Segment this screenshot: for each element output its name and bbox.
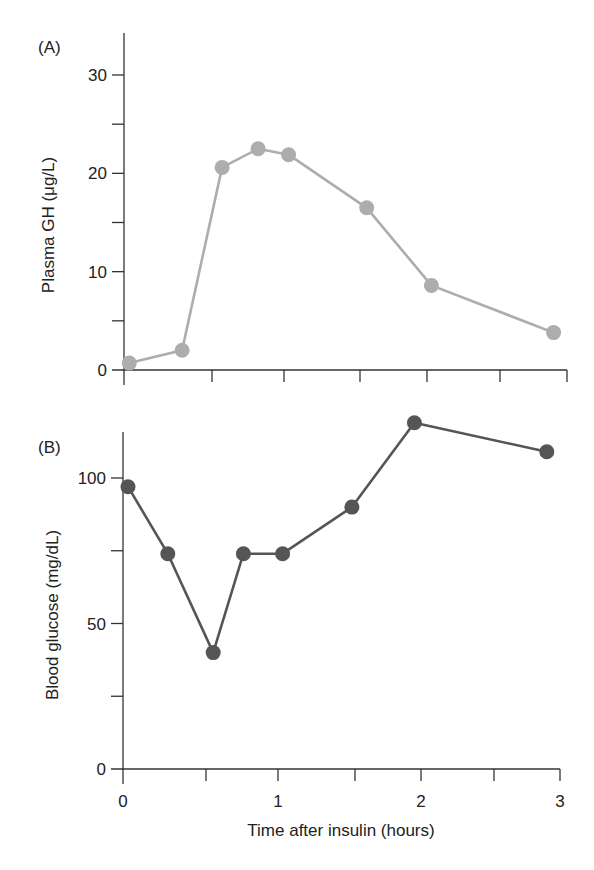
panel-a-label: (A)	[38, 38, 61, 57]
panel-a-data-point	[251, 141, 266, 156]
panel-a-data-point	[122, 356, 137, 371]
panel-b-x-tick-label: 1	[273, 792, 282, 811]
panel-b-data-point	[121, 479, 136, 494]
panel-b-y-axis-title: Blood glucose (mg/dL)	[43, 530, 62, 700]
panel-b-y-tick-label: 50	[87, 615, 106, 634]
panel-a-data-line	[129, 149, 553, 363]
panel-b-data-point	[407, 415, 422, 430]
panel-a-data-point	[546, 325, 561, 340]
panel-a-data-point	[175, 343, 190, 358]
panel-a-y-tick-label: 20	[88, 164, 107, 183]
panel-a-data-point	[424, 278, 439, 293]
panel-b-data-point	[275, 546, 290, 561]
panel-b-data-point	[236, 546, 251, 561]
panel-b-x-tick-label: 3	[555, 792, 564, 811]
panel-b-y-tick-label: 0	[97, 760, 106, 779]
panel-a-y-axis-title: Plasma GH (μg/L)	[39, 157, 58, 293]
panel-b-x-tick-label: 2	[416, 792, 425, 811]
chart-canvas: (A) Plasma GH (μg/L) 0102030 (B) Blood g…	[0, 0, 594, 870]
panel-a-y-tick-label: 10	[88, 263, 107, 282]
panel-b-data-point	[344, 500, 359, 515]
panel-a-data-point	[281, 147, 296, 162]
panel-b-data-point	[160, 546, 175, 561]
figure: (A) Plasma GH (μg/L) 0102030 (B) Blood g…	[0, 0, 594, 870]
panel-b-data-point	[206, 645, 221, 660]
panel-b-label: (B)	[38, 438, 61, 457]
panel-b-y-tick-label: 100	[78, 469, 106, 488]
panel-a-data-point	[215, 160, 230, 175]
panel-b-series-blood-glucose	[121, 415, 555, 660]
panel-a-axes: 0102030	[88, 33, 567, 385]
panel-a-plasma-gh: (A) Plasma GH (μg/L) 0102030	[38, 33, 567, 385]
panel-a-y-tick-label: 30	[88, 66, 107, 85]
panel-b-axes: 0501000123	[78, 432, 565, 811]
panel-b-blood-glucose: (B) Blood glucose (mg/dL) 0501000123 Tim…	[38, 415, 565, 840]
panel-a-series-plasma-gh	[122, 141, 561, 370]
panel-a-y-tick-label: 0	[98, 361, 107, 380]
panel-b-data-point	[539, 444, 554, 459]
panel-b-data-line	[128, 423, 547, 653]
x-axis-title: Time after insulin (hours)	[247, 821, 434, 840]
panel-a-data-point	[359, 200, 374, 215]
panel-b-x-tick-label: 0	[118, 792, 127, 811]
